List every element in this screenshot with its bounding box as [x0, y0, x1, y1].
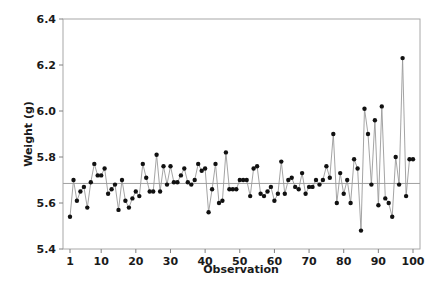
data-point	[137, 194, 141, 198]
data-point	[335, 201, 339, 205]
y-tick-label: 5.6	[37, 197, 57, 210]
data-point	[383, 196, 387, 200]
data-point	[182, 166, 186, 170]
data-point	[283, 192, 287, 196]
data-point	[321, 178, 325, 182]
data-point	[303, 192, 307, 196]
data-point	[317, 182, 321, 186]
data-point	[158, 189, 162, 193]
data-point	[102, 166, 106, 170]
x-tick-label: 20	[128, 255, 144, 268]
data-point	[328, 176, 332, 180]
x-tick-label: 70	[301, 255, 317, 268]
data-point	[109, 187, 113, 191]
x-tick-label: 100	[402, 255, 425, 268]
data-point	[359, 228, 363, 232]
data-point	[290, 176, 294, 180]
data-point	[82, 185, 86, 189]
data-point	[203, 166, 207, 170]
data-point	[411, 157, 415, 161]
data-point	[331, 132, 335, 136]
data-point	[342, 192, 346, 196]
data-point	[345, 178, 349, 182]
data-point	[116, 208, 120, 212]
data-point	[196, 162, 200, 166]
data-point	[248, 194, 252, 198]
data-point	[380, 104, 384, 108]
data-point	[310, 185, 314, 189]
x-tick-label: 90	[371, 255, 387, 268]
x-tick-label: 10	[94, 255, 110, 268]
data-point	[75, 199, 79, 203]
data-point	[168, 164, 172, 168]
data-point	[338, 171, 342, 175]
data-point	[189, 182, 193, 186]
data-point	[314, 178, 318, 182]
data-point	[394, 155, 398, 159]
data-point	[99, 173, 103, 177]
y-axis-title: Weight (g)	[22, 101, 35, 167]
data-point	[78, 189, 82, 193]
y-tick-label: 6.0	[37, 105, 57, 118]
data-point	[154, 153, 158, 157]
data-point	[366, 132, 370, 136]
data-point	[297, 187, 301, 191]
data-point	[387, 201, 391, 205]
data-point	[165, 182, 169, 186]
data-point	[376, 203, 380, 207]
data-point	[355, 166, 359, 170]
data-point	[234, 187, 238, 191]
data-point	[130, 196, 134, 200]
data-point	[262, 194, 266, 198]
data-point	[362, 107, 366, 111]
data-point	[113, 182, 117, 186]
y-tick-label: 5.8	[37, 151, 57, 164]
data-point	[68, 215, 72, 219]
data-point	[127, 205, 131, 209]
y-axis: 5.45.65.86.06.26.4	[37, 13, 64, 256]
data-point	[348, 201, 352, 205]
data-point	[106, 192, 110, 196]
data-point	[220, 199, 224, 203]
data-point	[276, 192, 280, 196]
data-point	[175, 180, 179, 184]
data-point	[85, 205, 89, 209]
data-point	[179, 173, 183, 177]
data-point	[255, 164, 259, 168]
data-point	[400, 56, 404, 60]
data-point	[369, 182, 373, 186]
x-tick-label: 80	[336, 255, 352, 268]
data-point	[265, 189, 269, 193]
data-point	[89, 180, 93, 184]
data-point	[245, 178, 249, 182]
data-point	[269, 185, 273, 189]
data-point	[300, 171, 304, 175]
data-point	[272, 199, 276, 203]
data-point	[404, 194, 408, 198]
data-point	[213, 162, 217, 166]
y-tick-label: 5.4	[37, 243, 57, 256]
y-tick-label: 6.4	[37, 13, 57, 26]
data-point	[92, 162, 96, 166]
data-point	[151, 189, 155, 193]
data-point	[397, 182, 401, 186]
data-point	[390, 215, 394, 219]
x-axis-title: Observation	[203, 263, 279, 276]
data-point	[144, 176, 148, 180]
x-tick-label: 30	[163, 255, 179, 268]
control-chart: 5.45.65.86.06.26.4 110203040506070809010…	[0, 0, 443, 287]
data-point	[161, 164, 165, 168]
data-point	[352, 157, 356, 161]
data-point	[120, 178, 124, 182]
data-point	[210, 187, 214, 191]
x-tick-label: 1	[66, 255, 74, 268]
data-point	[206, 210, 210, 214]
data-point	[373, 118, 377, 122]
data-point	[71, 178, 75, 182]
data-point	[224, 150, 228, 154]
data-point	[193, 178, 197, 182]
data-point	[141, 162, 145, 166]
data-point	[123, 199, 127, 203]
data-point	[279, 159, 283, 163]
data-point	[134, 189, 138, 193]
